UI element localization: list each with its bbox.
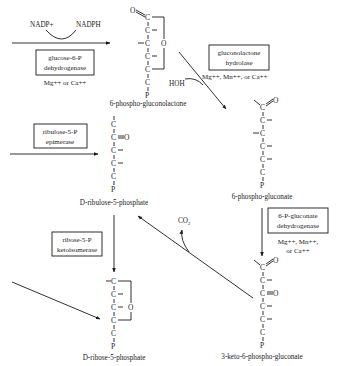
svg-text:C: C (145, 65, 150, 74)
svg-text:O: O (273, 256, 279, 265)
co2-label: CO2 (178, 217, 191, 226)
enzyme-name-line1: glucose-6-P (48, 54, 82, 62)
co2-release-curve (182, 230, 189, 252)
reaction-step-5: ribose-5-P ketoisomerase (52, 215, 114, 272)
cofactor-label-line2: or Ca++ (286, 247, 309, 255)
svg-text:C: C (111, 303, 116, 312)
svg-text:C: C (111, 172, 116, 181)
svg-text:C: C (145, 78, 150, 87)
svg-text:P: P (111, 342, 115, 351)
reaction-step-1: NADP+ NADPH glucose-6-P dehydrogenase Mg… (12, 21, 110, 87)
compound-3-keto-6-phospho-gluconate: C O C C O C C C P 3-keto-6-phospho-gluco… (221, 256, 302, 361)
reaction-arrow (138, 216, 253, 298)
incoming-arrow-ribose-5-phosphate (12, 282, 100, 319)
svg-text:P: P (260, 181, 264, 190)
reaction-step-3: 6-P-gluconate dehydrogenase Mg++, Mn++, … (262, 208, 328, 256)
svg-text:O: O (161, 39, 167, 48)
atom-o: O (130, 6, 136, 15)
svg-text:C: C (260, 289, 265, 298)
svg-text:C: C (260, 168, 265, 177)
enzyme-name-line2: ketoisomerase (57, 246, 97, 254)
svg-text:O: O (273, 289, 279, 298)
svg-text:C: C (111, 120, 116, 129)
enzyme-name-line2: hydrolase (225, 59, 252, 67)
compound-name: D-ribose-5-phosphate (83, 354, 146, 362)
cofactor-label: Mg++ or Ca++ (44, 79, 87, 87)
compound-name: 3-keto-6-phospho-gluconate (221, 353, 302, 361)
pentose-phosphate-pathway-diagram: NADP+ NADPH glucose-6-P dehydrogenase Mg… (0, 0, 337, 366)
enzyme-name-line1: gluconolactone (218, 49, 261, 57)
enzyme-name-line2: dehydrogenase (44, 64, 86, 72)
reaction-epimerase: ribulose-5-P epimerase (10, 124, 98, 154)
compound-6-phospho-gluconate: C O C C C C C P 6-phospho-gluconate (232, 96, 293, 201)
svg-text:C: C (260, 276, 265, 285)
cofactor-label-line1: Mg++, Mn++, (278, 238, 319, 246)
svg-text:C: C (145, 39, 150, 48)
svg-text:C: C (260, 142, 265, 151)
compound-name: D-ribulose-5-phosphate (80, 199, 148, 207)
hoh-label: HOH (169, 80, 185, 88)
svg-text:C: C (145, 13, 150, 22)
compound-name: 6-phospho-gluconate (232, 193, 293, 201)
enzyme-name-line2: epimerase (46, 138, 74, 146)
svg-text:P: P (260, 341, 264, 350)
svg-text:C: C (260, 116, 265, 125)
svg-text:C: C (111, 146, 116, 155)
reaction-step-4: CO2 (138, 216, 253, 298)
cofactor-curve (46, 30, 76, 39)
svg-text:C: C (145, 26, 150, 35)
enzyme-name-line1: 6-P-gluconate (278, 212, 317, 220)
svg-text:C: C (111, 329, 116, 338)
svg-text:C: C (260, 263, 265, 272)
svg-text:C: C (111, 159, 116, 168)
svg-text:C: C (260, 328, 265, 337)
svg-text:C: C (260, 103, 265, 112)
compound-name: 6-phospho-gluconolactone (110, 100, 187, 108)
compound-d-ribulose-5-phosphate: C C O C C C P D-ribulose-5-phosphate (80, 116, 148, 207)
svg-text:C: C (260, 315, 265, 324)
svg-text:C: C (260, 129, 265, 138)
svg-text:O: O (273, 96, 279, 105)
enzyme-name-line1: ribose-5-P (62, 236, 91, 244)
svg-text:P: P (111, 185, 115, 194)
compound-d-ribose-5-phosphate: C C C C C P O D-ribose-5-phosphate (83, 277, 146, 362)
svg-text:O: O (128, 303, 134, 312)
compound-6-phospho-gluconolactone: O C C C C C C P O 6-phospho-gluconolacto… (110, 6, 187, 108)
svg-text:C: C (111, 290, 116, 299)
svg-text:O: O (124, 133, 130, 142)
svg-text:C: C (260, 302, 265, 311)
svg-text:C: C (111, 277, 116, 286)
nadph-label: NADPH (76, 21, 101, 29)
svg-text:C: C (145, 52, 150, 61)
svg-text:C: C (260, 155, 265, 164)
enzyme-name-line1: ribulose-5-P (43, 128, 78, 136)
cofactor-label: Mg++, Mn++, or Ca++ (202, 73, 268, 81)
enzyme-name-line2: dehydrogenase (277, 222, 319, 230)
svg-text:C: C (111, 316, 116, 325)
svg-text:P: P (145, 91, 149, 100)
nadp-label: NADP+ (30, 21, 54, 29)
hoh-curve (185, 79, 203, 85)
svg-text:C: C (111, 133, 116, 142)
